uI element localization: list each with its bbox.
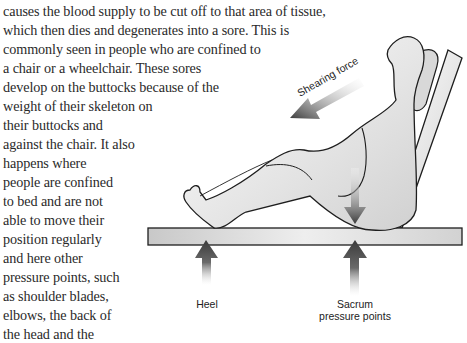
text-line: the head and the	[3, 325, 94, 343]
sacrum-up-arrow-icon	[343, 240, 367, 296]
heel-up-arrow-icon	[195, 240, 218, 285]
heel-label: Heel	[185, 298, 229, 310]
pressure-points-label: pressure points	[315, 310, 395, 322]
seat-board	[148, 228, 462, 245]
sacrum-label: Sacrum	[315, 298, 395, 310]
human-figure	[184, 37, 424, 231]
